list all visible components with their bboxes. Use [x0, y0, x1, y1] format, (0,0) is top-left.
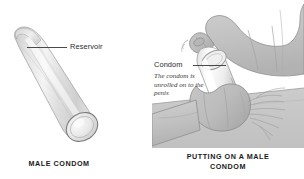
reservoir-leader-line	[27, 47, 67, 48]
figure-canvas: Reservoir MALE CONDOM	[0, 0, 304, 179]
condom-note: The condom is unrolled on to the penis	[154, 72, 216, 98]
condom-label: Condom	[154, 61, 183, 68]
putting-on-condom-caption-line1: PUTTING ON A MALE	[166, 152, 290, 162]
male-condom-illustration	[0, 0, 152, 150]
putting-on-condom-caption-line2: CONDOM	[166, 162, 290, 172]
male-condom-caption: MALE CONDOM	[0, 159, 118, 169]
condom-leader-line	[193, 65, 226, 66]
putting-on-condom-panel: Condom The condom is unrolled on to the …	[152, 0, 304, 179]
male-condom-panel: Reservoir MALE CONDOM	[0, 0, 152, 179]
reservoir-label: Reservoir	[70, 43, 103, 50]
